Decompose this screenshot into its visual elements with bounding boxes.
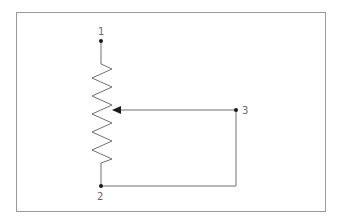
node-1-dot (99, 39, 103, 43)
node-1-label: 1 (98, 26, 104, 37)
node-2-dot (99, 184, 103, 188)
wiper-arrow-icon (112, 106, 121, 114)
circuit-diagram: 1 2 3 (0, 0, 339, 222)
diagram-frame (17, 13, 326, 212)
node-2-label: 2 (97, 191, 103, 202)
node-3-dot (234, 108, 238, 112)
resistor-zigzag (92, 64, 112, 163)
node-3-label: 3 (242, 105, 248, 116)
